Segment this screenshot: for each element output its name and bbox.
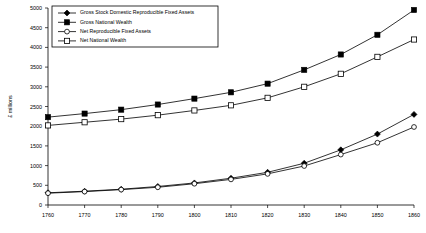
marker-open-circle [302,164,307,169]
marker-open-square [228,103,233,108]
x-tick-label: 1850 [371,212,383,218]
marker-open-circle [412,125,417,130]
marker-open-circle [338,152,343,157]
x-axis-group: 1760177017801790180018101820183018401850… [42,205,420,218]
marker-open-circle [229,177,234,182]
marker-filled-square [45,115,50,120]
chart-legend: Gross Stock Domestic Reproducible Fixed … [52,6,218,47]
x-tick-label: 1790 [152,212,164,218]
series-line [48,127,414,193]
series-1 [45,111,417,195]
series-4 [45,37,416,128]
marker-open-circle [155,185,160,190]
marker-filled-square [155,102,160,107]
marker-open-circle [65,29,70,34]
legend-label: Gross Stock Domestic Reproducible Fixed … [80,9,195,15]
y-tick-label: 4500 [30,25,42,31]
marker-filled-square [192,96,197,101]
x-tick-label: 1830 [298,212,310,218]
marker-open-circle [192,181,197,186]
y-tick-label: 1000 [30,163,42,169]
y-axis-group: 0500100015002000250030003500400045005000… [7,5,48,208]
marker-open-square [192,108,197,113]
y-tick-label: 3000 [30,84,42,90]
legend-item: Gross National Wealth [58,19,132,25]
marker-filled-square [64,20,69,25]
x-tick-label: 1780 [115,212,127,218]
x-tick-label: 1810 [225,212,237,218]
y-tick-label: 0 [39,202,42,208]
marker-filled-square [265,81,270,86]
x-tick-group: 1760177017801790180018101820183018401850… [42,205,420,218]
series-line [48,40,414,126]
marker-open-square [119,117,124,122]
y-tick-label: 2500 [30,104,42,110]
marker-open-circle [119,187,124,192]
y-tick-label: 5000 [30,5,42,11]
marker-filled-square [82,111,87,116]
marker-filled-square [119,107,124,112]
legend-item: Net National Wealth [58,37,126,43]
marker-open-square [411,37,416,42]
x-tick-label: 1760 [42,212,54,218]
y-tick-label: 2000 [30,123,42,129]
marker-open-circle [265,171,270,176]
legend-label: Gross National Wealth [80,19,132,25]
marker-filled-diamond [411,111,417,117]
y-tick-label: 3500 [30,64,42,70]
line-chart: 0500100015002000250030003500400045005000… [0,0,426,233]
y-tick-label: 1500 [30,143,42,149]
marker-open-circle [46,191,51,196]
marker-open-square [82,120,87,125]
marker-open-square [375,54,380,59]
marker-filled-diamond [374,131,380,137]
y-tick-label: 500 [33,182,42,188]
marker-filled-square [338,52,343,57]
marker-filled-square [411,7,416,12]
series-3 [46,125,417,196]
marker-open-square [302,84,307,89]
legend-label: Net Reproducible Fixed Assets [80,28,151,34]
marker-open-circle [375,140,380,145]
x-tick-label: 1800 [188,212,200,218]
y-axis-title: £ millions [7,95,13,118]
marker-open-circle [82,189,87,194]
x-tick-label: 1860 [408,212,420,218]
chart-canvas: 0500100015002000250030003500400045005000… [0,0,426,233]
x-tick-label: 1840 [335,212,347,218]
y-tick-group: 0500100015002000250030003500400045005000 [30,5,48,208]
marker-filled-square [302,67,307,72]
x-tick-label: 1770 [79,212,91,218]
marker-open-square [265,95,270,100]
x-tick-label: 1820 [262,212,274,218]
marker-open-square [64,38,69,43]
legend-label: Net National Wealth [80,37,126,43]
marker-filled-square [228,90,233,95]
marker-filled-square [375,32,380,37]
marker-open-square [45,123,50,128]
marker-open-square [155,113,160,118]
y-tick-label: 4000 [30,44,42,50]
marker-open-square [338,71,343,76]
